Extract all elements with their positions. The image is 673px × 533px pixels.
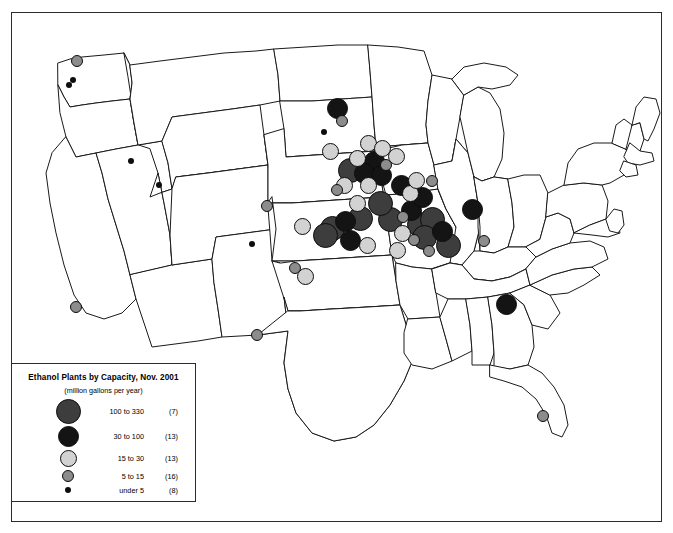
legend-range-3: 15 to 30 bbox=[82, 454, 144, 463]
plant-symbol bbox=[349, 195, 366, 212]
plant-symbol bbox=[397, 211, 409, 223]
plant-symbol bbox=[360, 177, 377, 194]
plant-symbol bbox=[349, 150, 366, 167]
plant-symbol bbox=[322, 143, 339, 160]
legend-swatch-3 bbox=[60, 450, 77, 467]
plant-symbol bbox=[423, 245, 435, 257]
plant-symbol bbox=[368, 191, 393, 216]
legend-count-3: (13) bbox=[152, 454, 178, 463]
plant-symbol bbox=[335, 211, 356, 232]
plant-symbol bbox=[336, 115, 348, 127]
legend-swatch-5 bbox=[65, 487, 71, 493]
legend-count-1: (7) bbox=[152, 407, 178, 416]
plant-symbol bbox=[66, 82, 72, 88]
screenshot-root: Ethanol Plants by Capacity, Nov. 2001 (m… bbox=[0, 0, 673, 533]
plant-symbol bbox=[331, 184, 343, 196]
plant-symbol bbox=[426, 175, 438, 187]
plant-symbol bbox=[537, 410, 549, 422]
plant-symbol bbox=[294, 218, 311, 235]
legend-subtitle: (million gallons per year) bbox=[12, 386, 195, 395]
plant-symbol bbox=[340, 230, 361, 251]
plant-symbol bbox=[496, 294, 517, 315]
plant-symbol bbox=[249, 241, 255, 247]
legend-range-2: 30 to 100 bbox=[82, 432, 144, 441]
plant-symbol bbox=[408, 234, 420, 246]
plant-symbol bbox=[432, 221, 453, 242]
legend-count-5: (8) bbox=[152, 486, 178, 495]
plant-symbol bbox=[462, 199, 483, 220]
legend-swatch-1 bbox=[56, 399, 81, 424]
plant-symbol bbox=[71, 55, 83, 67]
legend-range-1: 100 to 330 bbox=[82, 407, 144, 416]
plant-symbol bbox=[478, 235, 490, 247]
legend-count-2: (13) bbox=[152, 432, 178, 441]
legend-swatch-2 bbox=[58, 426, 79, 447]
plant-symbol bbox=[70, 301, 82, 313]
plant-symbol bbox=[359, 237, 376, 254]
plant-symbol bbox=[251, 329, 263, 341]
plant-symbol bbox=[156, 182, 162, 188]
plant-symbol bbox=[289, 262, 301, 274]
legend-range-4: 5 to 15 bbox=[82, 472, 144, 481]
legend-count-4: (16) bbox=[152, 472, 178, 481]
legend-range-5: under 5 bbox=[82, 486, 144, 495]
plant-symbol bbox=[313, 223, 338, 248]
plant-symbol bbox=[408, 172, 425, 189]
legend-swatch-4 bbox=[62, 470, 74, 482]
legend-title: Ethanol Plants by Capacity, Nov. 2001 bbox=[12, 373, 195, 382]
plant-symbol bbox=[321, 129, 327, 135]
map-legend: Ethanol Plants by Capacity, Nov. 2001 (m… bbox=[11, 363, 196, 502]
plant-symbol bbox=[261, 200, 273, 212]
plant-symbol bbox=[380, 159, 392, 171]
plant-symbol bbox=[128, 158, 134, 164]
plant-symbol bbox=[389, 242, 406, 259]
